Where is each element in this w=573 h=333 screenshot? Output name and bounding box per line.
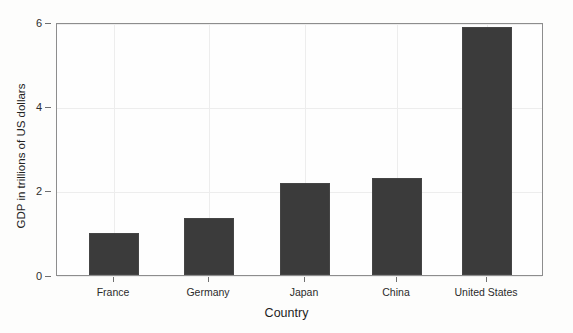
bar-germany xyxy=(184,218,234,275)
y-tick-label: 2 xyxy=(36,186,42,197)
x-tick-mark xyxy=(304,277,305,282)
x-tick-label-germany: Germany xyxy=(186,286,229,298)
chart-screenshot: 6 4 2 0 GDP in trillions of US dollars xyxy=(0,0,573,333)
y-tick-mark xyxy=(45,107,51,108)
gridline-horizontal xyxy=(57,24,542,25)
y-axis: 6 4 2 0 xyxy=(0,0,56,333)
plot-area xyxy=(56,23,543,276)
bar-japan xyxy=(280,183,330,275)
x-tick-mark xyxy=(486,277,487,282)
y-tick-mark xyxy=(45,23,51,24)
gridline-horizontal xyxy=(57,276,542,277)
bar-united-states xyxy=(462,27,512,275)
x-axis-title: Country xyxy=(0,306,573,320)
x-tick-label-france: France xyxy=(97,286,130,298)
x-tick-label-china: China xyxy=(382,286,409,298)
y-tick-mark xyxy=(45,276,51,277)
x-tick-mark xyxy=(113,277,114,282)
y-tick-label: 4 xyxy=(36,102,42,113)
x-tick-mark xyxy=(396,277,397,282)
y-tick-label: 6 xyxy=(36,18,42,29)
x-tick-mark xyxy=(208,277,209,282)
x-tick-label-united-states: United States xyxy=(454,286,517,298)
x-tick-label-japan: Japan xyxy=(290,286,319,298)
y-tick-label: 0 xyxy=(36,271,42,282)
y-tick-mark xyxy=(45,191,51,192)
y-axis-title: GDP in trillions of US dollars xyxy=(15,51,27,261)
bar-france xyxy=(89,233,139,275)
bar-china xyxy=(372,178,422,275)
